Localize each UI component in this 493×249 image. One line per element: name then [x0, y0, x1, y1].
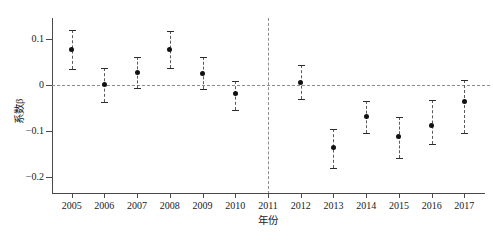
y-tick-label: −0.2: [26, 172, 44, 182]
error-bar-cap: [134, 57, 141, 58]
x-tick-mark: [464, 193, 465, 198]
data-point: [298, 80, 303, 85]
error-bar-cap: [363, 133, 370, 134]
data-point: [364, 114, 369, 119]
data-point: [102, 82, 107, 87]
y-tick-label-wrap: −0.1: [0, 126, 44, 136]
error-bar-cap: [396, 158, 403, 159]
x-tick-label: 2017: [444, 200, 484, 212]
error-bar: [464, 80, 465, 133]
error-bar-cap: [101, 102, 108, 103]
error-bar-cap: [298, 65, 305, 66]
policy-reference-line: [268, 18, 269, 194]
y-tick-mark: [46, 131, 52, 132]
error-bar-cap: [200, 57, 207, 58]
x-tick-mark: [137, 193, 138, 198]
data-point: [233, 91, 238, 96]
x-tick-mark: [399, 193, 400, 198]
y-tick-label: 0.1: [32, 34, 45, 44]
x-tick-mark: [235, 193, 236, 198]
error-bar-cap: [429, 100, 436, 101]
data-point: [167, 47, 172, 52]
x-tick-mark: [104, 193, 105, 198]
y-tick-mark: [46, 39, 52, 40]
x-tick-mark: [333, 193, 334, 198]
data-point: [331, 145, 336, 150]
error-bar-cap: [330, 168, 337, 169]
error-bar-cap: [461, 133, 468, 134]
y-tick-label-wrap: 0.1: [0, 34, 44, 44]
y-axis-title: 系数β: [14, 98, 26, 123]
x-axis-title: 年份: [228, 215, 308, 227]
y-tick-label: 0: [39, 80, 44, 90]
data-point: [69, 47, 74, 52]
error-bar-cap: [69, 69, 76, 70]
data-point: [200, 71, 205, 76]
data-point: [462, 99, 467, 104]
error-bar-cap: [167, 68, 174, 69]
error-bar-cap: [101, 68, 108, 69]
y-tick-label: −0.1: [26, 126, 44, 136]
error-bar-cap: [232, 81, 239, 82]
coefficient-plot: 0.10−0.1−0.2 200520062007200820092010201…: [0, 0, 493, 249]
x-tick-mark: [203, 193, 204, 198]
error-bar: [432, 100, 433, 144]
error-bar-cap: [200, 89, 207, 90]
data-point: [429, 123, 434, 128]
error-bar-cap: [396, 117, 403, 118]
y-axis-line: [52, 18, 53, 194]
error-bar-cap: [232, 110, 239, 111]
x-tick-mark: [268, 193, 269, 198]
y-tick-label-wrap: −0.2: [0, 172, 44, 182]
error-bar-cap: [330, 129, 337, 130]
x-tick-mark: [170, 193, 171, 198]
error-bar-cap: [461, 80, 468, 81]
error-bar-cap: [134, 88, 141, 89]
zero-reference-line: [52, 85, 490, 86]
error-bar-cap: [69, 30, 76, 31]
x-tick-mark: [301, 193, 302, 198]
y-tick-mark: [46, 177, 52, 178]
data-point: [396, 134, 401, 139]
y-tick-label-wrap: 0: [0, 80, 44, 90]
x-tick-mark: [72, 193, 73, 198]
error-bar-cap: [429, 144, 436, 145]
data-point: [135, 70, 140, 75]
error-bar-cap: [363, 101, 370, 102]
error-bar-cap: [298, 99, 305, 100]
error-bar-cap: [167, 31, 174, 32]
x-tick-mark: [432, 193, 433, 198]
y-tick-mark: [46, 85, 52, 86]
x-tick-mark: [366, 193, 367, 198]
